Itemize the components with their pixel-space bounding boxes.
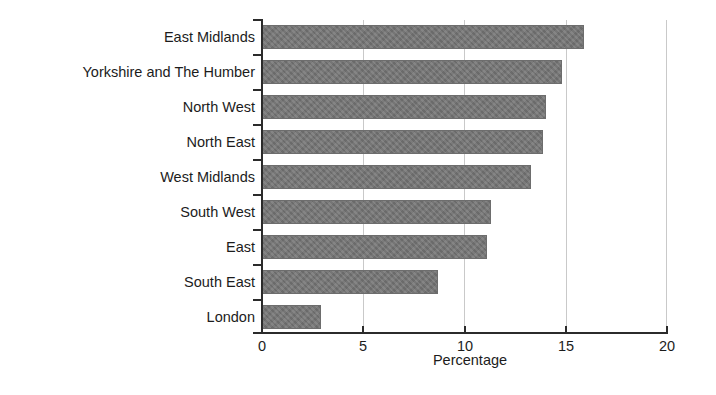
bar-east-midlands [262, 25, 584, 49]
y-axis-label-north-east: North East [0, 134, 255, 150]
x-axis-tick [464, 326, 466, 334]
y-axis-tick [253, 54, 262, 56]
y-axis-tick [253, 264, 262, 266]
y-axis-label-london: London [0, 309, 255, 325]
y-axis-tick [253, 299, 262, 301]
y-axis-label-south-east: South East [0, 274, 255, 290]
y-axis-label-text: South East [184, 274, 255, 290]
y-axis-label-text: West Midlands [160, 169, 255, 185]
y-axis-label-north-west: North West [0, 99, 255, 115]
y-axis-label-text: Yorkshire and The Humber [83, 64, 256, 80]
x-axis-tick [362, 326, 364, 334]
y-axis-label-text: East [226, 239, 255, 255]
bar-north-east [262, 130, 543, 154]
bar-east [262, 235, 487, 259]
x-axis-tick-label-0: 0 [232, 338, 292, 355]
gridline-15 [566, 20, 567, 333]
y-axis-label-yorkshire-and-the-humber: Yorkshire and The Humber [0, 64, 255, 80]
bar-north-west [262, 95, 546, 119]
y-axis-tick [253, 19, 262, 21]
y-axis-label-west-midlands: West Midlands [0, 169, 255, 185]
y-axis-label-text: East Midlands [164, 29, 255, 45]
gridline-20 [666, 20, 667, 333]
bar-yorkshire-and-the-humber [262, 60, 562, 84]
x-axis-tick [261, 326, 263, 334]
y-axis-label-text: London [207, 309, 255, 325]
y-axis-tick [253, 124, 262, 126]
y-axis-tick [253, 89, 262, 91]
y-axis-label-east: East [0, 239, 255, 255]
x-axis-tick-label-5: 5 [333, 338, 393, 355]
horizontal-bar-chart: East Midlands Yorkshire and The Humber N… [0, 0, 716, 395]
x-axis-tick-label-20: 20 [637, 338, 697, 355]
bar-london [262, 305, 321, 329]
y-axis-label-south-west: South West [0, 204, 255, 220]
x-axis-tick [565, 326, 567, 334]
y-axis-label-text: North West [183, 99, 255, 115]
bar-south-west [262, 200, 491, 224]
y-axis-tick [253, 229, 262, 231]
x-axis-tick-label-15: 15 [536, 338, 596, 355]
y-axis-label-east-midlands: East Midlands [0, 29, 255, 45]
y-axis-tick [253, 159, 262, 161]
y-axis-label-text: North East [187, 134, 256, 150]
bar-south-east [262, 270, 438, 294]
x-axis-title: Percentage [400, 352, 540, 369]
bar-west-midlands [262, 165, 531, 189]
y-axis-tick [253, 194, 262, 196]
plot-area [262, 20, 667, 333]
y-axis-label-text: South West [180, 204, 255, 220]
x-axis-tick [666, 326, 668, 334]
y-axis-line [261, 19, 263, 334]
